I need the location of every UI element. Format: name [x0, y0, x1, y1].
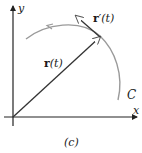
- figure-canvas: y x r(t) r′(t) C (c): [0, 0, 142, 153]
- tangent-vector-arg: (t): [101, 12, 114, 25]
- diagram-svg: [0, 0, 142, 153]
- position-vector: [13, 37, 100, 117]
- tangent-vector-label: r′(t): [93, 13, 114, 24]
- position-vector-label: r(t): [44, 58, 63, 69]
- curve-label: C: [127, 89, 136, 101]
- x-axis-label: x: [133, 105, 139, 116]
- position-vector-arg: (t): [50, 57, 63, 70]
- y-axis-label: y: [18, 3, 24, 14]
- figure-caption: (c): [64, 137, 79, 148]
